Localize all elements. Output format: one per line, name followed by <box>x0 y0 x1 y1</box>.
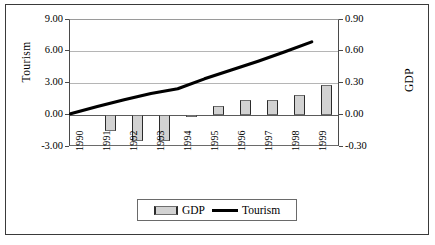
left-ytick-0: 9.00 <box>17 13 63 24</box>
legend-label-gdp: GDP <box>182 204 205 216</box>
legend-entry-gdp: GDP <box>154 204 205 216</box>
tickmark-right-4 <box>339 146 343 147</box>
x-tick-label: 1996 <box>236 130 247 151</box>
line-swatch-icon <box>212 209 238 212</box>
x-tick-label: 1992 <box>128 130 139 151</box>
left-ytick-4: -3.00 <box>17 140 63 151</box>
tourism-line <box>71 42 312 114</box>
x-tick-label: 1998 <box>290 130 301 151</box>
x-tick-label: 1990 <box>74 130 85 151</box>
chart-legend: GDP Tourism <box>137 199 297 221</box>
tickmark-left-4 <box>65 146 69 147</box>
tickmark-right-2 <box>339 82 343 83</box>
tickmark-right-0 <box>339 19 343 20</box>
plot-area <box>69 19 339 146</box>
right-axis-title: GDP <box>403 57 415 103</box>
x-tick-label: 1995 <box>209 130 220 151</box>
right-ytick-2: 0.30 <box>345 76 391 87</box>
left-ytick-2: 3.00 <box>17 76 63 87</box>
left-ytick-3: 0.00 <box>17 108 63 119</box>
chart-figure: Tourism GDP 9.00 6.00 3.00 0.00 -3.00 0.… <box>0 0 435 245</box>
legend-label-tourism: Tourism <box>242 204 280 216</box>
tickmark-right-1 <box>339 50 343 51</box>
tourism-line-layer <box>70 20 338 145</box>
left-ytick-1: 6.00 <box>17 44 63 55</box>
x-tick-label: 1994 <box>182 130 193 151</box>
tickmark-right-3 <box>339 114 343 115</box>
bar-swatch-icon <box>154 206 178 215</box>
legend-entry-tourism: Tourism <box>212 204 280 216</box>
right-ytick-0: 0.90 <box>345 13 391 24</box>
x-tick-label: 1991 <box>101 130 112 151</box>
right-ytick-1: 0.60 <box>345 44 391 55</box>
x-tick-label: 1993 <box>155 130 166 151</box>
right-ytick-4: -0.30 <box>345 140 391 151</box>
x-tick-label: 1999 <box>317 130 328 151</box>
right-ytick-3: 0.00 <box>345 108 391 119</box>
x-tick-label: 1997 <box>263 130 274 151</box>
